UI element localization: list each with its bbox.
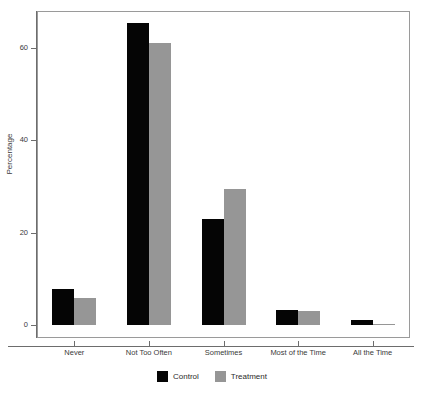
bar-control-4 bbox=[351, 320, 373, 325]
x-tick-label: Sometimes bbox=[205, 349, 243, 357]
x-tick-label: All the Time bbox=[353, 349, 392, 357]
bar-treatment-1 bbox=[149, 43, 171, 325]
y-tick-label: 40 bbox=[0, 136, 28, 144]
bar-treatment-4 bbox=[373, 324, 395, 325]
bar-control-2 bbox=[202, 219, 224, 325]
x-tick-0 bbox=[74, 341, 75, 346]
bar-control-3 bbox=[276, 310, 298, 325]
legend-label: Control bbox=[173, 373, 199, 381]
legend-label: Treatment bbox=[231, 373, 267, 381]
y-axis-title-wrap: Percentage bbox=[0, 0, 30, 394]
y-tick-60 bbox=[31, 48, 36, 49]
x-axis-line bbox=[8, 346, 414, 347]
y-tick-label: 0 bbox=[0, 321, 28, 329]
x-tick-label: Most of the Time bbox=[270, 349, 325, 357]
x-tick-label: Never bbox=[64, 349, 84, 357]
legend-swatch-icon bbox=[157, 371, 168, 382]
x-tick-label: Not Too Often bbox=[126, 349, 172, 357]
y-tick-label: 60 bbox=[0, 44, 28, 52]
bar-control-1 bbox=[127, 23, 149, 325]
x-tick-1 bbox=[149, 341, 150, 346]
y-tick-20 bbox=[31, 233, 36, 234]
y-tick-label: 20 bbox=[0, 229, 28, 237]
bars-layer bbox=[37, 11, 410, 325]
bar-treatment-2 bbox=[224, 189, 246, 325]
legend-item-treatment[interactable]: Treatment bbox=[215, 371, 267, 382]
y-tick-40 bbox=[31, 140, 36, 141]
y-axis-title: Percentage bbox=[6, 122, 14, 186]
bar-treatment-3 bbox=[298, 311, 320, 325]
legend-item-control[interactable]: Control bbox=[157, 371, 199, 382]
x-tick-4 bbox=[373, 341, 374, 346]
x-tick-2 bbox=[224, 341, 225, 346]
x-tick-3 bbox=[298, 341, 299, 346]
bar-chart: Percentage 0204060 NeverNot Too OftenSom… bbox=[0, 0, 424, 394]
y-tick-0 bbox=[31, 325, 36, 326]
bar-control-0 bbox=[52, 289, 74, 325]
bar-treatment-0 bbox=[74, 298, 96, 325]
chart-legend: ControlTreatment bbox=[0, 371, 424, 382]
legend-swatch-icon bbox=[215, 371, 226, 382]
